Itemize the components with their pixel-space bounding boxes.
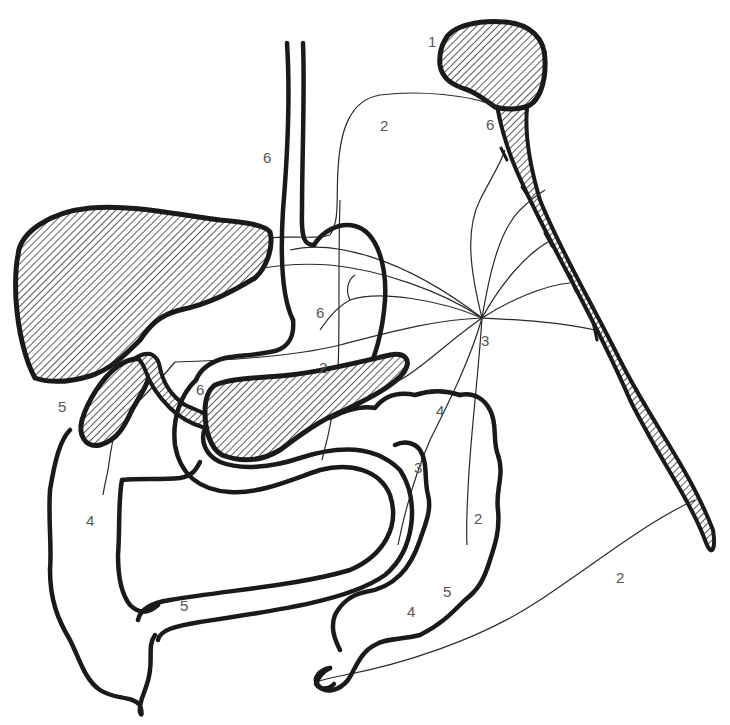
label-2-pancreas-nerve: 2 — [319, 359, 327, 376]
nerve-endings — [501, 148, 597, 340]
spinal-cord — [497, 106, 714, 550]
label-6-brainstem: 6 — [486, 116, 494, 133]
esophagus — [282, 43, 314, 320]
label-3-celiac-ganglion: 3 — [481, 332, 489, 349]
label-5-gallbladder: 5 — [58, 398, 66, 415]
label-4-ascending-colon: 4 — [86, 512, 94, 529]
label-6-bile-duct: 6 — [196, 381, 204, 398]
label-2-descending-colon: 2 — [474, 510, 482, 527]
label-5-small-intestine: 5 — [180, 597, 188, 614]
label-3-descending-nerve: 3 — [414, 459, 422, 476]
label-4-transverse-colon: 4 — [436, 402, 444, 419]
label-6-esophagus: 6 — [263, 149, 271, 166]
digestive-innervation-diagram: 1 2 6 6 6 3 2 6 5 4 3 4 2 5 4 5 2 — [0, 0, 730, 725]
label-2-pelvic-nerve: 2 — [616, 569, 624, 586]
label-4-sigmoid: 4 — [407, 603, 415, 620]
label-1-brain: 1 — [428, 33, 436, 50]
label-2-vagus-upper: 2 — [380, 117, 388, 134]
label-6-stomach: 6 — [316, 304, 324, 321]
label-5-sigmoid: 5 — [443, 583, 451, 600]
